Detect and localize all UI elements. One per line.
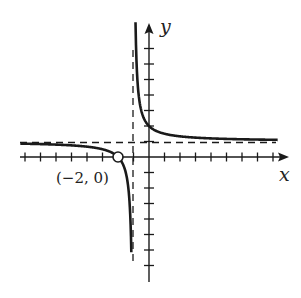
open-circle-marker [113,152,123,162]
graph: (−2, 0) x y [0,0,301,298]
y-axis-label: y [159,15,171,37]
x-axis-label: x [279,163,290,185]
curve-right-branch [136,22,278,140]
point-label: (−2, 0) [56,169,109,187]
